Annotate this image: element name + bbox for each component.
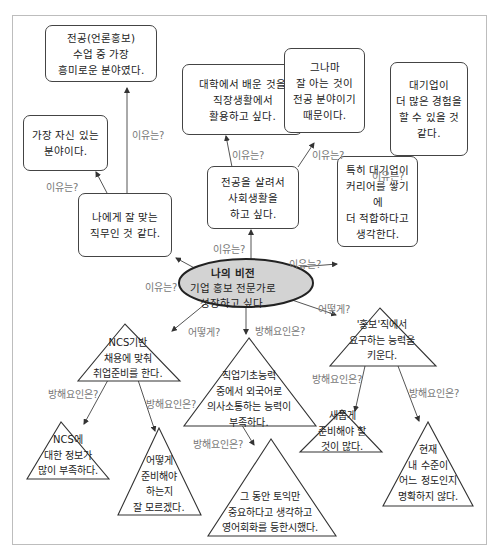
label-obstacle-6: 방해요인은?	[409, 385, 459, 400]
obstacle-toeic-only: 그 동안 토익만 중요하다고 생각하고 영어회화를 등한시했다.	[206, 489, 334, 536]
obstacle-ncs-info: NCS에 대한 정보가 많이 부족하다.	[28, 432, 108, 479]
label-reason-6: 이유는?	[312, 147, 344, 162]
label-obstacle-3: 방해요인은?	[146, 396, 196, 411]
how-pr-skills: '홍보'직에서 요구하는 능력을 키운다.	[338, 317, 426, 364]
label-obstacle-1: 방해요인은?	[255, 323, 305, 338]
label-reason-8: 이유는?	[372, 168, 404, 183]
reason-box-know-major: 그나마 잘 아는 것이 전공 분야이기 때문이다.	[284, 48, 365, 133]
vision-text: 기업 홍보 전문가로 성장하고 싶다.	[178, 281, 288, 311]
reason-box-confident-field: 가장 자신 있는 분야이다.	[23, 115, 108, 171]
label-reason-4: 이유는?	[213, 241, 245, 256]
label-reason-2: 이유는?	[46, 179, 78, 194]
label-how-2: 어떻게?	[318, 301, 350, 316]
how-ncs-prep: NCS기반 채용에 맞춰 취업준비를 한다.	[90, 335, 166, 382]
reason-box-more-experience: 대기업이 더 많은 경험을 할 수 있을 것 같다.	[390, 62, 468, 156]
reason-box-fit-job: 나에게 잘 맞는 직무인 것 같다.	[78, 193, 172, 257]
label-reason-3: 이유는?	[132, 127, 164, 142]
obstacle-new-prep: 새롭게 준비해야 할 것이 많다.	[310, 408, 374, 455]
label-how-1: 어떻게?	[188, 324, 220, 339]
reason-box-most-interesting: 전공(언론홍보) 수업 중 가장 흥미로운 분야였다.	[45, 25, 157, 82]
label-obstacle-5: 방해요인은?	[312, 371, 362, 386]
reason-box-use-major: 전공을 살려서 사회생활을 하고 싶다.	[207, 166, 299, 229]
vision-title: 나의 비전	[178, 266, 288, 281]
obstacle-level-unclear: 현재 내 수준이 어느 정도인지 명확하지 않다.	[387, 442, 469, 504]
obstacle-foreign-lang: 직업기초능력 중에서 외국어로 의사소통하는 능력이 부족하다.	[190, 368, 308, 430]
label-reason-7: 이유는?	[289, 256, 321, 271]
label-reason-5: 이유는?	[232, 147, 264, 162]
label-reason-1: 이유는?	[145, 279, 177, 294]
label-obstacle-4: 방해요인은?	[193, 436, 243, 451]
label-obstacle-2: 방해요인은?	[48, 386, 98, 401]
obstacle-dont-know: 어떻게 준비해야 하는지 잘 모르겠다.	[128, 453, 190, 515]
